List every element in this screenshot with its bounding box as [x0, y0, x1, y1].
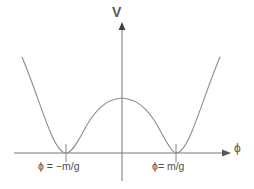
- vertical-axis-arrow-icon: [119, 22, 126, 30]
- vertical-axis-label: V: [112, 5, 122, 19]
- tick-label-left-minimum: ϕ = −m/g: [38, 161, 79, 172]
- tick-label-right-minimum: ϕ= m/g: [152, 161, 184, 172]
- horizontal-axis-label: ϕ: [234, 142, 241, 154]
- potential-plot-figure: V ϕ ϕ = −m/g ϕ= m/g: [0, 0, 254, 189]
- horizontal-axis-arrow-icon: [222, 150, 231, 157]
- potential-curve: [22, 57, 220, 153]
